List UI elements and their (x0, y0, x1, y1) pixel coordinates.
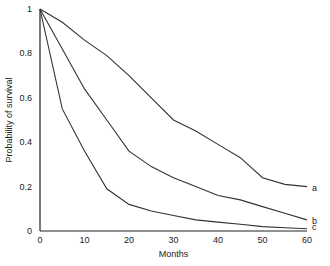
x-tick-label: 50 (257, 235, 267, 245)
survival-curve-c (40, 9, 307, 229)
x-tick-label: 20 (124, 235, 134, 245)
y-tick-label: 0.6 (19, 93, 32, 103)
y-tick-label: 0 (27, 226, 32, 236)
y-tick-label: 0.4 (19, 137, 32, 147)
x-tick-label: 0 (37, 235, 42, 245)
survival-chart: 010203040506000.20.40.60.81MonthsProbabi… (0, 0, 330, 266)
y-tick-label: 1 (27, 4, 32, 14)
x-tick-label: 10 (79, 235, 89, 245)
y-tick-label: 0.8 (19, 48, 32, 58)
y-axis-label: Probability of survival (4, 77, 14, 162)
survival-curve-b (40, 9, 307, 220)
x-tick-label: 30 (168, 235, 178, 245)
x-tick-label: 60 (302, 235, 312, 245)
y-tick-label: 0.2 (19, 182, 32, 192)
survival-curve-a (40, 9, 307, 187)
x-axis-label: Months (159, 249, 189, 259)
curve-label-a: a (312, 183, 317, 193)
curve-label-c: c (312, 222, 317, 232)
x-tick-label: 40 (213, 235, 223, 245)
